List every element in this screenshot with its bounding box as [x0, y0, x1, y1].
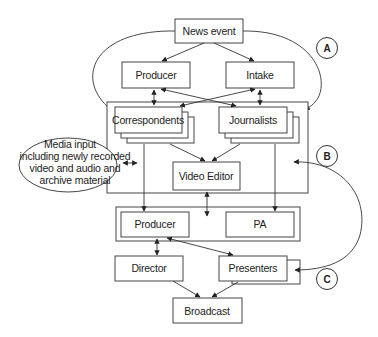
marker-b: B: [317, 146, 338, 167]
media-input-line1: Media input: [44, 138, 96, 150]
svg-text:B: B: [323, 151, 330, 162]
node-producer-top[interactable]: Producer: [122, 62, 190, 88]
presenters-label: Presenters: [229, 262, 278, 274]
producer-top-label: Producer: [135, 69, 177, 81]
node-producer-bottom[interactable]: Producer: [121, 212, 189, 237]
node-intake[interactable]: Intake: [226, 62, 294, 88]
node-presenters[interactable]: Presenters: [219, 256, 300, 284]
media-input-line2: including newly recorded: [20, 150, 131, 162]
broadcast-label: Broadcast: [184, 305, 230, 317]
video-editor-label: Video Editor: [179, 170, 234, 182]
intake-label: Intake: [246, 69, 274, 81]
producer-bottom-label: Producer: [134, 218, 176, 230]
marker-a: A: [317, 38, 338, 59]
marker-c: C: [317, 269, 338, 290]
node-correspondents[interactable]: Correspondents: [112, 107, 194, 143]
media-input-line3: video and audio and: [30, 162, 121, 174]
node-pa[interactable]: PA: [226, 212, 294, 237]
pa-label: PA: [254, 218, 267, 230]
node-broadcast[interactable]: Broadcast: [173, 298, 242, 323]
media-input-line4: archive material: [40, 174, 111, 186]
node-video-editor[interactable]: Video Editor: [173, 162, 240, 190]
news-workflow-diagram: News event Producer Intake Correspondent…: [0, 0, 378, 337]
svg-text:C: C: [323, 274, 330, 285]
node-director[interactable]: Director: [115, 256, 183, 281]
journalists-label: Journalists: [229, 114, 277, 126]
correspondents-label: Correspondents: [112, 114, 184, 126]
svg-text:A: A: [323, 43, 330, 54]
news-event-label: News event: [183, 25, 236, 37]
director-label: Director: [131, 262, 167, 274]
node-journalists[interactable]: Journalists: [219, 107, 299, 143]
node-news-event[interactable]: News event: [175, 19, 243, 43]
